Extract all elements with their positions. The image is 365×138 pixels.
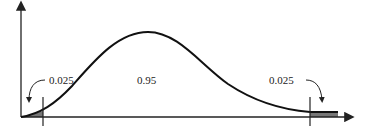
left-tail-label: 0.025 <box>49 74 74 86</box>
diagram-canvas: 0.025 0.95 0.025 <box>0 0 365 138</box>
center-label: 0.95 <box>137 74 157 86</box>
right-tail-label: 0.025 <box>269 74 294 86</box>
density-diagram: 0.025 0.95 0.025 <box>0 0 365 138</box>
right-pointer-arrow <box>306 80 322 100</box>
